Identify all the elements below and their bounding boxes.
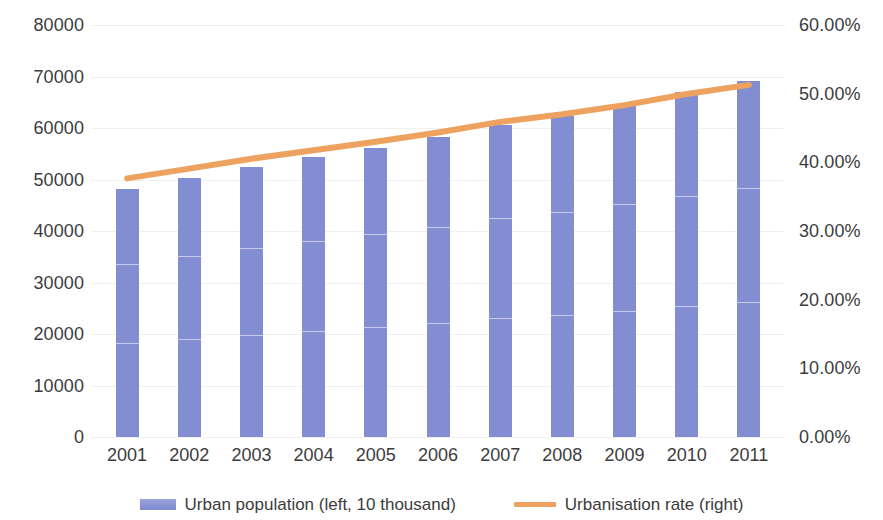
right-y-axis: 60.00%50.00%40.00%30.00%20.00%10.00%0.00… [791, 0, 883, 460]
urbanisation-rate-line [127, 85, 749, 178]
x-axis-tick-label: 2003 [221, 444, 281, 466]
x-axis-tick-label: 2006 [408, 444, 468, 466]
legend-label-urbanisation-rate: Urbanisation rate (right) [565, 495, 744, 514]
left-axis-tick-label: 30000 [33, 274, 84, 292]
right-axis-tick-label: 0.00% [799, 428, 851, 446]
right-axis-tick-label: 40.00% [799, 153, 861, 171]
line-swatch-icon [514, 502, 556, 507]
left-axis-tick-label: 70000 [33, 68, 84, 86]
line-series [92, 15, 792, 445]
left-y-axis: 8000070000600005000040000300002000010000… [0, 0, 92, 460]
left-axis-tick-label: 0 [74, 428, 84, 446]
x-axis-tick-label: 2010 [657, 444, 717, 466]
x-axis-tick-label: 2001 [97, 444, 157, 466]
legend-label-urban-population: Urban population (left, 10 thousand) [185, 495, 456, 514]
left-axis-tick-label: 20000 [33, 325, 84, 343]
x-axis-tick-label: 2005 [346, 444, 406, 466]
right-axis-tick-label: 50.00% [799, 85, 861, 103]
right-axis-tick-label: 20.00% [799, 291, 861, 309]
legend-item-urban-population[interactable]: Urban population (left, 10 thousand) [140, 495, 456, 514]
left-axis-tick-label: 50000 [33, 171, 84, 189]
right-axis-tick-label: 30.00% [799, 222, 861, 240]
bar-swatch-icon [140, 499, 176, 510]
left-axis-tick-label: 40000 [33, 222, 84, 240]
right-axis-tick-label: 10.00% [799, 359, 861, 377]
x-axis-tick-label: 2004 [284, 444, 344, 466]
x-axis-tick-label: 2009 [595, 444, 655, 466]
left-axis-tick-label: 10000 [33, 377, 84, 395]
left-axis-tick-label: 60000 [33, 119, 84, 137]
chart-legend: Urban population (left, 10 thousand) Urb… [0, 488, 883, 520]
plot-area [96, 25, 780, 437]
x-axis-tick-label: 2007 [470, 444, 530, 466]
legend-item-urbanisation-rate[interactable]: Urbanisation rate (right) [514, 495, 744, 514]
x-axis-tick-label: 2008 [532, 444, 592, 466]
left-axis-tick-label: 80000 [33, 16, 84, 34]
chart-container: 8000070000600005000040000300002000010000… [0, 0, 883, 520]
x-axis-tick-label: 2002 [159, 444, 219, 466]
x-axis-tick-label: 2011 [719, 444, 779, 466]
right-axis-tick-label: 60.00% [799, 16, 861, 34]
x-axis: 2001200220032004200520062007200820092010… [96, 444, 780, 470]
